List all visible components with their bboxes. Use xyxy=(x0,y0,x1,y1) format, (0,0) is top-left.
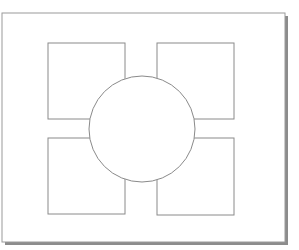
diagram-svg xyxy=(0,0,299,250)
center-circle xyxy=(89,76,195,182)
diagram-canvas xyxy=(0,0,299,250)
